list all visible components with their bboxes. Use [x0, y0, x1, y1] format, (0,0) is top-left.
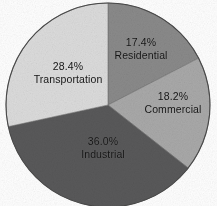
slice-label-transportation: 28.4% Transportation: [18, 60, 118, 85]
pie-chart-figure: 17.4% Residential 18.2% Commercial 36.0%…: [0, 0, 217, 206]
slice-name-transportation: Transportation: [18, 73, 118, 86]
slice-value-commercial: 18.2%: [131, 90, 215, 103]
slice-value-residential: 17.4%: [103, 36, 179, 49]
slice-label-industrial: 36.0% Industrial: [60, 135, 146, 160]
slice-value-industrial: 36.0%: [60, 135, 146, 148]
slice-label-residential: 17.4% Residential: [103, 36, 179, 61]
slice-name-commercial: Commercial: [131, 103, 215, 116]
slice-label-commercial: 18.2% Commercial: [131, 90, 215, 115]
slice-value-transportation: 28.4%: [18, 60, 118, 73]
slice-name-industrial: Industrial: [60, 148, 146, 161]
